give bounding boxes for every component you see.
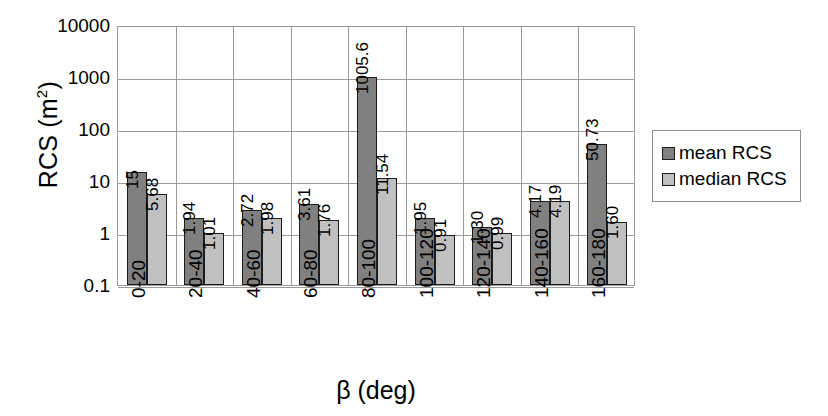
bar-value-label: 15: [123, 170, 143, 189]
legend-item[interactable]: median RCS: [662, 166, 787, 192]
grid-line-vertical: [521, 27, 522, 285]
bar-value-label: 1.76: [315, 204, 335, 237]
x-axis-tick-label: 60-80: [300, 249, 322, 298]
x-axis-tick-label: 160-180: [588, 228, 610, 298]
x-axis-tick-label: 140-160: [531, 228, 553, 298]
x-axis-tick-label: 120-140: [473, 228, 495, 298]
bar-value-label: 1.01: [200, 217, 220, 250]
x-axis-tick-label: 40-60: [243, 249, 265, 298]
x-axis-tick-label: 80-100: [358, 239, 380, 298]
y-axis-tick-label: 100: [18, 119, 110, 141]
bar-value-label: 4.19: [546, 185, 566, 218]
bar-value-label: 1005.6: [353, 42, 373, 94]
grid-line-vertical: [291, 27, 292, 285]
y-axis-tick-label: 1: [18, 223, 110, 245]
bar-value-label: 2.72: [238, 194, 258, 227]
legend-item[interactable]: mean RCS: [662, 140, 787, 166]
y-axis-tick-label: 10: [18, 171, 110, 193]
legend-label: median RCS: [679, 168, 787, 190]
x-axis-tick-label: 0-20: [128, 260, 150, 298]
bar-value-label: 5.68: [143, 178, 163, 211]
bar-value-label: 1.98: [258, 201, 278, 234]
legend-swatch-median-icon: [662, 173, 675, 186]
chart-legend: mean RCS median RCS: [652, 130, 801, 202]
y-axis-tick-label: 0.1: [18, 275, 110, 297]
x-axis-tick-label: 100-120: [416, 228, 438, 298]
bar-value-label: 50.73: [583, 119, 603, 162]
y-axis-tick-labels: 1000010001001010.1: [14, 0, 110, 416]
y-axis-tick-label: 1000: [18, 67, 110, 89]
grid-line-vertical: [578, 27, 579, 285]
legend-label: mean RCS: [679, 142, 772, 164]
bar-value-label: 4.17: [526, 185, 546, 218]
grid-line-vertical: [406, 27, 407, 285]
grid-line-vertical: [233, 27, 234, 285]
y-axis-tick-label: 10000: [18, 15, 110, 37]
chart-figure: RCS (m2) 1000010001001010.1 β (deg) mean…: [0, 0, 828, 416]
x-axis-tick-label: 20-40: [185, 249, 207, 298]
bar-value-label: 11.54: [373, 153, 393, 194]
legend-swatch-mean-icon: [662, 147, 675, 160]
grid-line-vertical: [176, 27, 177, 285]
grid-line-vertical: [463, 27, 464, 285]
x-axis-title: β (deg): [117, 376, 635, 405]
bar-value-label: 1.94: [180, 202, 200, 235]
bar-value-label: 3.61: [295, 188, 315, 221]
grid-line-vertical: [348, 27, 349, 285]
